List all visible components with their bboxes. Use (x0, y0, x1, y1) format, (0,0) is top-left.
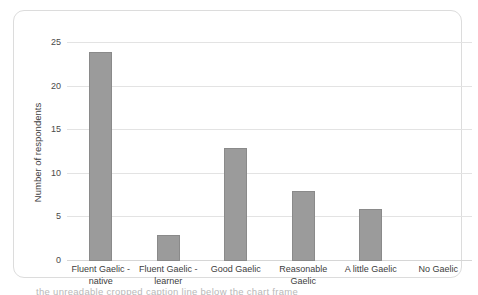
y-tick-label-5: 5 (56, 212, 61, 221)
chart-frame: Number of respondents 0510152025 Fluent … (13, 10, 462, 278)
plot-area: 0510152025 (67, 43, 472, 261)
cropped-caption-text: the unreadable cropped caption line belo… (0, 286, 478, 295)
bar[interactable] (224, 148, 247, 261)
x-axis-label: Fluent Gaelic -native (67, 264, 135, 287)
x-axis-labels: Fluent Gaelic -nativeFluent Gaelic -lear… (67, 264, 472, 287)
y-tick-label-10: 10 (51, 168, 61, 177)
bar[interactable] (359, 209, 382, 261)
cropped-caption-line: the unreadable cropped caption line belo… (36, 286, 478, 295)
bar-slot (337, 43, 405, 261)
bar-slot (135, 43, 203, 261)
y-tick-label-0: 0 (56, 256, 61, 265)
bar-slot (405, 43, 473, 261)
x-axis-label-line: A little Gaelic (338, 264, 404, 276)
x-axis-label: Fluent Gaelic -learner (135, 264, 203, 287)
x-axis-label: A little Gaelic (337, 264, 405, 287)
y-tick-label-15: 15 (51, 125, 61, 134)
bar[interactable] (157, 235, 180, 261)
x-axis-label-line: Fluent Gaelic - (68, 264, 134, 276)
y-tick-label-25: 25 (51, 38, 61, 47)
x-axis-label: Good Gaelic (202, 264, 270, 287)
x-axis-label-line: No Gaelic (406, 264, 472, 276)
y-axis-title: Number of respondents (31, 43, 45, 261)
bars-group (67, 43, 472, 261)
x-axis-label-line: Good Gaelic (203, 264, 269, 276)
x-axis-label: ReasonableGaelic (270, 264, 338, 287)
bar-slot (270, 43, 338, 261)
bar[interactable] (292, 191, 315, 261)
y-tick-label-20: 20 (51, 81, 61, 90)
y-axis-title-label: Number of respondents (33, 102, 44, 201)
bar-slot (202, 43, 270, 261)
x-axis-label: No Gaelic (405, 264, 473, 287)
x-axis-label-line: Fluent Gaelic - (136, 264, 202, 276)
x-axis-label-line: Reasonable (271, 264, 337, 276)
bar-slot (67, 43, 135, 261)
bar[interactable] (89, 52, 112, 261)
